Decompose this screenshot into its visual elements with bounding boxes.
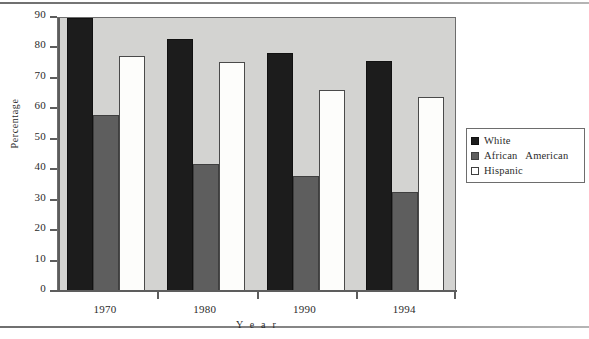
x-axis-label-1980: 1980 — [175, 303, 235, 315]
chart-legend: WhiteAfrican AmericanHispanic — [466, 128, 585, 183]
white-square-swatch — [471, 167, 479, 175]
y-tick-label: 10 — [35, 253, 46, 264]
y-tick-mark — [50, 107, 57, 109]
bar-african-american-1994 — [392, 192, 418, 291]
legend-label: White — [484, 135, 511, 146]
y-tick-mark — [50, 260, 57, 262]
y-tick-label: 60 — [35, 100, 46, 111]
bar-chart-figure: 0102030405060708090 Percentage Y e a r W… — [0, 0, 589, 339]
bar-white-1970 — [67, 18, 93, 291]
y-tick-label: 80 — [35, 39, 46, 50]
y-axis-tick: 30 — [0, 200, 57, 201]
bar-hispanic-1980 — [219, 62, 245, 291]
y-tick-label: 20 — [35, 222, 46, 233]
legend-label: African American — [484, 150, 568, 161]
y-axis-tick: 10 — [0, 261, 57, 262]
page-rule-top — [0, 2, 589, 4]
bar-african-american-1990 — [293, 176, 319, 291]
y-tick-mark — [50, 168, 57, 170]
y-tick-mark — [50, 16, 57, 18]
bar-african-american-1980 — [193, 164, 219, 291]
x-tick-mark — [157, 292, 159, 299]
black-square-swatch — [471, 137, 479, 145]
y-tick-mark — [50, 138, 57, 140]
y-tick-mark — [50, 199, 57, 201]
y-tick-label: 40 — [35, 161, 46, 172]
bar-white-1980 — [167, 39, 193, 291]
gray-square-swatch — [471, 152, 479, 160]
legend-item: White — [471, 133, 579, 148]
x-axis-ticks — [57, 292, 457, 302]
y-tick-mark — [50, 46, 57, 48]
bars-layer — [58, 18, 456, 291]
y-tick-label: 0 — [40, 283, 46, 294]
x-tick-mark — [454, 292, 456, 299]
y-tick-mark — [50, 77, 57, 79]
y-tick-label: 50 — [35, 131, 46, 142]
x-tick-mark — [257, 292, 259, 299]
x-axis-label-1970: 1970 — [75, 303, 135, 315]
y-axis-tick: 0 — [0, 291, 57, 292]
bar-hispanic-1994 — [418, 97, 444, 291]
bar-hispanic-1990 — [319, 90, 345, 291]
x-axis-title: Y e a r — [57, 319, 457, 330]
y-axis-tick: 90 — [0, 17, 57, 18]
y-axis-tick: 20 — [0, 230, 57, 231]
y-tick-mark — [50, 290, 57, 292]
x-axis-label-1994: 1994 — [374, 303, 434, 315]
y-tick-label: 30 — [35, 192, 46, 203]
plot-area — [57, 17, 456, 291]
legend-label: Hispanic — [484, 165, 523, 176]
bar-hispanic-1970 — [119, 56, 145, 291]
y-axis-tick: 80 — [0, 47, 57, 48]
y-tick-label: 90 — [35, 9, 46, 20]
x-tick-mark — [356, 292, 358, 299]
y-tick-mark — [50, 229, 57, 231]
y-tick-label: 70 — [35, 70, 46, 81]
bar-african-american-1970 — [93, 115, 119, 291]
y-axis-title: Percentage — [9, 64, 20, 184]
x-axis-label-1990: 1990 — [275, 303, 335, 315]
bar-white-1994 — [366, 61, 392, 291]
legend-item: African American — [471, 148, 579, 163]
legend-item: Hispanic — [471, 163, 579, 178]
bar-white-1990 — [267, 53, 293, 291]
